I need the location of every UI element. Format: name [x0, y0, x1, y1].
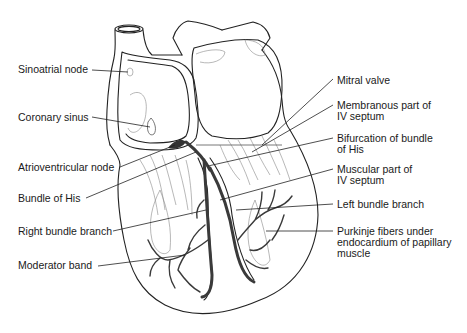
right-atrium-inner — [126, 60, 189, 143]
bundle-of-his-path — [186, 142, 210, 170]
label-muscular-iv-septum: Muscular part of IV septum — [337, 164, 412, 186]
left-ventricle-trabeculae — [220, 136, 290, 185]
pulmonary-trunk — [222, 22, 270, 50]
label-moderator-band: Moderator band — [18, 260, 92, 271]
leader-sinoatrial-node — [92, 70, 128, 72]
label-atrioventricular-node: Atrioventricular node — [18, 162, 114, 173]
left-bundle-branch-path — [210, 168, 254, 282]
label-purkinje-fibers: Purkinje fibers under endocardium of pap… — [337, 226, 451, 259]
left-atrium — [192, 39, 282, 138]
leader-coronary-sinus — [92, 117, 150, 127]
right-purkinje — [150, 200, 205, 292]
label-right-bundle-branch: Right bundle branch — [18, 226, 112, 237]
svc-left-wall — [107, 30, 116, 145]
svc-right-wall — [143, 30, 182, 55]
left-atrium-valve-a — [196, 50, 225, 63]
label-bundle-of-his: Bundle of His — [18, 193, 80, 204]
leader-membranous-iv-septum — [252, 105, 333, 152]
label-sinoatrial-node: Sinoatrial node — [18, 64, 88, 75]
right-bundle-branch-path — [202, 160, 212, 297]
leader-right-bundle-branch — [113, 210, 206, 231]
label-mitral-valve: Mitral valve — [337, 75, 390, 86]
label-left-bundle-branch: Left bundle branch — [337, 199, 424, 210]
left-atrium-valve-b — [245, 40, 265, 56]
label-membranous-iv-septum: Membranous part of IV septum — [337, 100, 431, 122]
right-ventricle-trabeculae — [140, 155, 192, 215]
left-purkinje — [238, 190, 292, 268]
leader-bifurcation-bundle-his — [208, 138, 333, 166]
leader-left-bundle-branch — [236, 204, 333, 210]
label-coronary-sinus: Coronary sinus — [18, 112, 89, 123]
chambers — [118, 39, 282, 150]
leader-mitral-valve — [262, 79, 333, 145]
label-bifurcation-bundle-his: Bifurcation of bundle of His — [337, 133, 433, 155]
fossa-ovalis — [128, 92, 146, 132]
leader-atrioventricular-node — [120, 145, 175, 167]
ventricles — [140, 136, 290, 300]
svc-lumen — [118, 26, 140, 31]
leader-moderator-band — [98, 255, 185, 266]
